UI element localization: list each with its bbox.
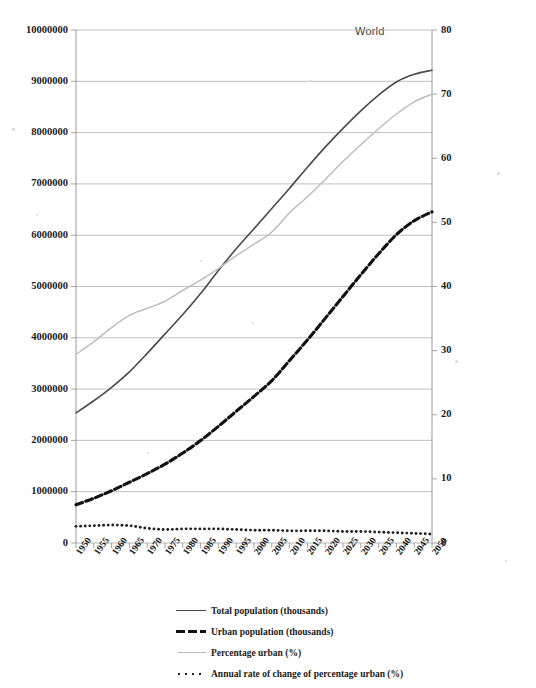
- series-dot: [336, 530, 339, 533]
- y-axis-right-tick-label: 60: [441, 152, 452, 163]
- series-dot: [244, 528, 247, 531]
- y-axis-left-tick-label: 2000000: [0, 434, 68, 445]
- series-dot: [304, 529, 307, 532]
- series-dot: [171, 528, 174, 531]
- series-dot: [267, 529, 270, 532]
- legend-dotted-icon-rate-of-change: [176, 668, 206, 680]
- series-dot: [143, 527, 146, 530]
- series-dot: [162, 528, 165, 531]
- y-axis-left-tick-label: 4000000: [0, 331, 68, 342]
- series-dot: [79, 525, 82, 528]
- series-dot: [139, 526, 142, 529]
- series-dot: [249, 529, 252, 532]
- y-axis-right-tick-label: 50: [441, 216, 452, 227]
- series-dot: [373, 530, 376, 533]
- series-dot: [396, 531, 399, 534]
- series-dot: [121, 524, 124, 527]
- series-dot: [208, 527, 211, 530]
- series-dot: [254, 529, 257, 532]
- series-dot: [189, 527, 192, 530]
- series-line-annual-rate-of-change-of-percentage-urban: [75, 524, 432, 536]
- legend-item-rate-of-change: Annual rate of change of percentage urba…: [0, 663, 536, 684]
- series-dot: [424, 532, 427, 535]
- series-dot: [313, 529, 316, 532]
- series-dot: [355, 530, 358, 533]
- series-line-urban-population-thousands: [76, 212, 432, 505]
- series-dot: [323, 529, 326, 532]
- series-dot: [185, 527, 188, 530]
- series-dot: [240, 528, 243, 531]
- series-dot: [107, 524, 110, 527]
- y-axis-left-tick-label: 5000000: [0, 280, 68, 291]
- series-dot: [88, 524, 91, 527]
- series-dot: [295, 529, 298, 532]
- legend-item-total-population: Total population (thousands): [0, 600, 536, 621]
- series-dot: [258, 529, 261, 532]
- y-axis-right-tick-label: 20: [441, 408, 452, 419]
- series-dot: [369, 530, 372, 533]
- chart-container: World 0100000020000003000000400000050000…: [0, 0, 536, 688]
- series-dot: [415, 532, 418, 535]
- y-axis-left-tick-label: 1000000: [0, 485, 68, 496]
- series-dot: [346, 530, 349, 533]
- series-dot: [263, 529, 266, 532]
- chart-legend: Total population (thousands) Urban popul…: [0, 600, 536, 684]
- series-dot: [428, 532, 431, 535]
- series-dot: [75, 525, 78, 528]
- legend-label-total-population: Total population (thousands): [211, 606, 328, 616]
- series-dot: [364, 530, 367, 533]
- series-dot: [125, 524, 128, 527]
- series-dot: [134, 525, 137, 528]
- series-dot: [221, 528, 224, 531]
- series-dot: [157, 528, 160, 531]
- y-axis-left-tick-label: 6000000: [0, 229, 68, 240]
- legend-line-icon-urban-population: [176, 626, 206, 638]
- y-axis-right-tick-label: 70: [441, 88, 452, 99]
- series-dot: [98, 524, 101, 527]
- y-axis-left-tick-label: 0: [0, 537, 68, 548]
- series-dot: [290, 529, 293, 532]
- series-dot: [332, 530, 335, 533]
- series-dot: [410, 532, 413, 535]
- series-dot: [277, 529, 280, 532]
- legend-label-rate-of-change: Annual rate of change of percentage urba…: [211, 669, 403, 679]
- series-dot: [392, 531, 395, 534]
- series-dot: [217, 527, 220, 530]
- series-dot: [350, 530, 353, 533]
- series-dot: [318, 529, 321, 532]
- series-dot: [212, 527, 215, 530]
- series-dot: [281, 529, 284, 532]
- chart-plot-svg: [0, 0, 536, 688]
- y-axis-left-tick-label: 9000000: [0, 75, 68, 86]
- legend-label-urban-population: Urban population (thousands): [211, 627, 334, 637]
- series-dot: [419, 532, 422, 535]
- series-dot: [300, 529, 303, 532]
- series-dot: [378, 531, 381, 534]
- y-axis-left-tick-label: 7000000: [0, 177, 68, 188]
- series-line-total-population-thousands: [76, 70, 432, 413]
- series-dot: [148, 527, 151, 530]
- y-axis-left-tick-label: 8000000: [0, 126, 68, 137]
- series-dot: [175, 528, 178, 531]
- series-dot: [203, 527, 206, 530]
- y-axis-right-tick-label: 10: [441, 472, 452, 483]
- series-dot: [166, 528, 169, 531]
- series-dot: [152, 527, 155, 530]
- series-dot: [387, 531, 390, 534]
- series-dot: [226, 528, 229, 531]
- legend-label-percentage-urban: Percentage urban (%): [211, 648, 301, 658]
- series-dot: [116, 524, 119, 527]
- series-dot: [180, 527, 183, 530]
- series-dot: [309, 529, 312, 532]
- y-axis-left-tick-label: 10000000: [0, 24, 68, 35]
- series-dot: [405, 532, 408, 535]
- series-dot: [198, 527, 201, 530]
- series-dot: [286, 529, 289, 532]
- series-dot: [102, 524, 105, 527]
- series-dot: [93, 524, 96, 527]
- series-dot: [327, 529, 330, 532]
- series-dot: [231, 528, 234, 531]
- series-dot: [382, 531, 385, 534]
- series-dot: [401, 532, 404, 535]
- y-axis-left-tick-label: 3000000: [0, 383, 68, 394]
